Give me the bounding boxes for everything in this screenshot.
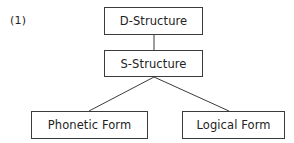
node-d-structure-label: D-Structure	[120, 14, 188, 28]
example-number-label: (1)	[10, 14, 26, 27]
edge-s-to-phonetic	[89, 77, 154, 111]
t-model-diagram: (1) D-Structure S-Structure Phonetic For…	[0, 0, 294, 143]
node-s-structure: S-Structure	[104, 50, 203, 77]
node-phonetic-form: Phonetic Form	[31, 111, 148, 139]
node-d-structure: D-Structure	[104, 7, 203, 35]
node-phonetic-form-label: Phonetic Form	[48, 118, 132, 132]
node-logical-form: Logical Form	[182, 111, 285, 139]
node-s-structure-label: S-Structure	[120, 57, 186, 71]
node-logical-form-label: Logical Form	[196, 118, 270, 132]
edge-s-to-logical	[154, 77, 229, 111]
